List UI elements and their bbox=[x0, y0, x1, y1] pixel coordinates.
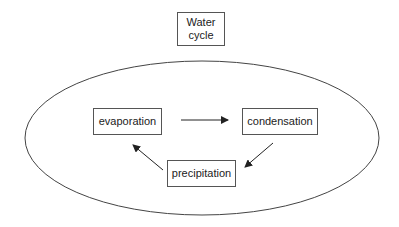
title-line-2: cycle bbox=[188, 29, 213, 42]
arrow-condensation-to-precipitation bbox=[245, 143, 273, 167]
arrow-precipitation-to-evaporation bbox=[133, 145, 163, 170]
cycle-ellipse bbox=[25, 61, 379, 215]
node-label: precipitation bbox=[172, 167, 231, 180]
node-label: condensation bbox=[247, 115, 312, 128]
node-label: evaporation bbox=[99, 115, 157, 128]
node-condensation: condensation bbox=[242, 108, 318, 135]
title-box: Water cycle bbox=[177, 12, 225, 46]
node-evaporation: evaporation bbox=[93, 108, 162, 135]
title-line-1: Water bbox=[187, 16, 216, 29]
node-precipitation: precipitation bbox=[167, 160, 236, 187]
